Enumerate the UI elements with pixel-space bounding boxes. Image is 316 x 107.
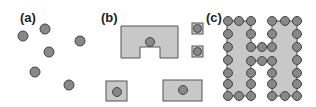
panel-a-points <box>18 24 85 90</box>
diagram-canvas <box>0 0 316 107</box>
